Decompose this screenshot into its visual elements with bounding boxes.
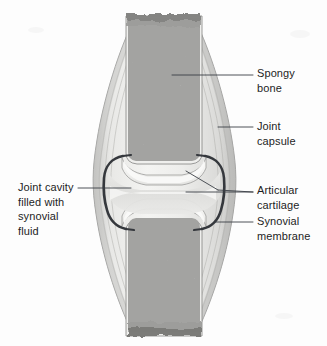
spongy-bone-upper-group (120, 10, 210, 170)
upper-bone-cut-edge (127, 14, 201, 26)
synovial-joint-figure: Spongy bone Joint capsule Articular cart… (0, 0, 327, 346)
lower-bone-cut-edge (127, 322, 201, 336)
upper-bone-texture-fine (120, 10, 210, 170)
label-joint-cavity: Joint cavity filled with synovial fluid (18, 180, 138, 238)
label-synovial-membrane: Synovial membrane (257, 214, 310, 243)
label-joint-capsule: Joint capsule (257, 119, 296, 148)
label-articular-cartilage: Articular cartilage (257, 183, 299, 212)
joint-illustration (0, 0, 327, 346)
label-spongy-bone: Spongy bone (257, 66, 295, 95)
